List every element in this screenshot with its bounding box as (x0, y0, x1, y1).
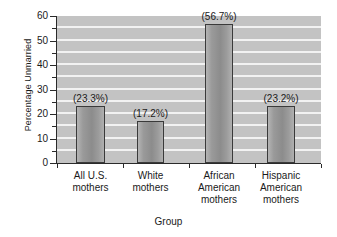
bar (76, 106, 105, 163)
bar (267, 106, 295, 163)
y-tick-major (50, 41, 57, 42)
y-tick-major (50, 65, 57, 66)
y-tick-label: 50 (28, 36, 48, 46)
y-tick-minor (52, 77, 57, 78)
y-tick-major (50, 90, 57, 91)
y-tick-label: 10 (28, 134, 48, 144)
y-tick-label: 60 (28, 11, 48, 21)
x-tick (189, 164, 190, 168)
x-tick (123, 164, 124, 168)
y-tick-label: 30 (28, 85, 48, 95)
x-tick (255, 164, 256, 168)
bar-value-label: (23.3%) (61, 93, 121, 104)
bar-chart: Percentage Unmarried 0102030405060 (23.3… (0, 0, 337, 237)
x-tick (321, 164, 322, 168)
category-label: Whitemothers (116, 170, 186, 194)
bar (137, 121, 164, 163)
bar (205, 24, 233, 163)
category-label-line: American (246, 182, 316, 194)
gridline (57, 26, 321, 28)
plot-area (57, 16, 321, 163)
y-tick-label: 0 (28, 158, 48, 168)
y-tick-minor (52, 102, 57, 103)
gridline (57, 75, 321, 77)
y-tick-major (50, 16, 57, 17)
bar-value-label: (17.2%) (121, 108, 181, 119)
category-label-line: Hispanic (246, 170, 316, 182)
bar-value-label: (56.7%) (189, 11, 249, 22)
bar-value-label: (23.2%) (251, 93, 311, 104)
category-label-line: American (184, 182, 254, 194)
x-axis-title: Group (0, 216, 337, 227)
category-label-line: White (116, 170, 186, 182)
y-tick-minor (52, 126, 57, 127)
y-tick-minor (52, 53, 57, 54)
category-label-line: mothers (246, 194, 316, 206)
y-tick-major (50, 139, 57, 140)
y-tick-major (50, 114, 57, 115)
gridline (57, 88, 321, 90)
y-tick-minor (52, 151, 57, 152)
category-label-line: mothers (116, 182, 186, 194)
x-tick (57, 164, 58, 168)
gridline (57, 39, 321, 41)
y-tick-label: 20 (28, 109, 48, 119)
gridline (57, 51, 321, 53)
gridline (57, 63, 321, 65)
y-tick-label: 40 (28, 60, 48, 70)
category-label-line: African (184, 170, 254, 182)
category-label-line: mothers (184, 194, 254, 206)
category-label: HispanicAmericanmothers (246, 170, 316, 206)
y-tick-minor (52, 28, 57, 29)
category-label: AfricanAmericanmothers (184, 170, 254, 206)
y-tick-major (50, 163, 57, 164)
